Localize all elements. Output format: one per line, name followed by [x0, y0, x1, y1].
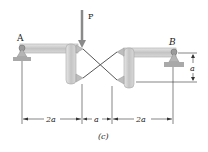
label-a: A: [16, 33, 24, 43]
crossed-links: [83, 49, 117, 80]
label-b: B: [168, 37, 176, 47]
load-arrow-p: [78, 10, 86, 48]
dim-span2-label: a: [94, 115, 99, 124]
dim-vertical-label: a: [190, 64, 195, 73]
support-a: [13, 45, 31, 124]
vertical-dimension: [136, 53, 197, 82]
figure-caption: (c): [98, 132, 109, 141]
frame-diagram: A B P a 2a: [0, 0, 208, 152]
label-p: P: [88, 12, 94, 21]
dim-span3-label: 2a: [135, 115, 146, 124]
dim-span1-label: 2a: [45, 115, 56, 124]
support-b: [164, 49, 184, 124]
left-bracket-member: [20, 44, 83, 84]
